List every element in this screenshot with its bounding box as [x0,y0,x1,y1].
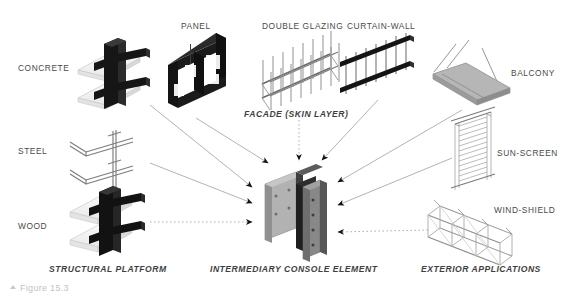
icon-balcony [433,40,510,105]
icon-wood-assembly [70,186,145,256]
icon-steel-assembly [70,130,133,196]
triangle-up-icon [10,285,16,289]
group-label-exterior-applications: EXTERIOR APPLICATIONS [421,264,541,274]
icon-double-glazing [262,31,339,110]
icon-sun-screen [451,107,495,190]
label-steel: STEEL [18,146,47,156]
group-label-intermediary-console: INTERMEDIARY CONSOLE ELEMENT [210,264,377,274]
label-wind-shield: WIND-SHIELD [494,205,555,215]
label-balcony: BALCONY [511,68,555,78]
group-label-structural-platform: STRUCTURAL PLATFORM [49,264,167,274]
figure-diagram: CONCRETE STEEL WOOD PANEL DOUBLE GLAZING… [0,0,570,298]
label-panel: PANEL [181,21,211,31]
icon-panel [168,33,226,108]
group-label-facade: FACADE (SKIN LAYER) [244,109,348,119]
label-double-glazing: DOUBLE GLAZING [262,21,343,31]
label-curtain-wall: CURTAIN-WALL [347,21,415,31]
icon-curtain-wall [340,33,414,94]
icon-concrete-assembly [78,38,150,109]
label-wood: WOOD [18,221,47,231]
diagram-canvas [0,0,570,298]
icon-intermediary-console-element [265,164,327,262]
figure-caption: Figure 15.3 [10,283,69,293]
label-sun-screen: SUN-SCREEN [497,148,558,158]
figure-caption-text: Figure 15.3 [20,283,69,293]
label-concrete: CONCRETE [18,63,69,73]
